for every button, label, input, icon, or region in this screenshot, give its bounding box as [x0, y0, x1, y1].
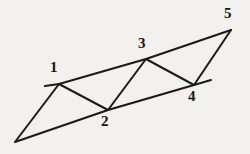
vertex-label-1: 1	[50, 60, 58, 75]
vertex-label-4: 4	[188, 89, 196, 104]
edge-vertex-3-to-4	[146, 59, 194, 85]
vertex-label-3: 3	[138, 36, 146, 51]
edge-vertex-1-to-2	[59, 84, 108, 110]
edge-vertex-2-to-3	[108, 59, 146, 110]
bottom-rail-line	[15, 80, 211, 142]
line-diagram-canvas	[0, 0, 250, 154]
edge-apex-to-vertex-1	[15, 84, 59, 142]
figure-container: 1 2 3 4 5	[0, 0, 250, 154]
edge-vertex-4-to-5	[194, 30, 231, 85]
vertex-label-5: 5	[224, 6, 232, 21]
vertex-label-2: 2	[101, 114, 109, 129]
